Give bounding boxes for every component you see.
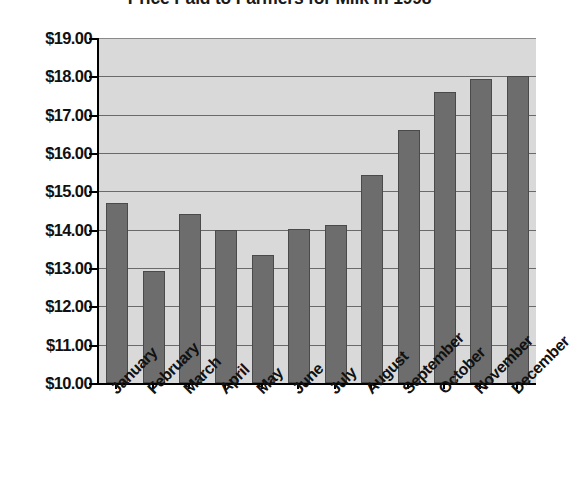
plot-area xyxy=(97,38,536,385)
y-axis-tick-mark xyxy=(89,76,98,78)
y-axis-tick-label: $19.00 xyxy=(8,29,92,48)
y-axis-tick-mark xyxy=(89,306,98,308)
gridline xyxy=(99,76,536,77)
y-axis-tick-mark xyxy=(89,345,98,347)
y-axis-tick-mark xyxy=(89,268,98,270)
y-axis-tick-mark xyxy=(89,38,98,40)
bar-september xyxy=(398,130,420,383)
bar-august xyxy=(361,175,383,383)
gridline xyxy=(99,38,536,39)
bar-june xyxy=(288,229,310,383)
y-axis-tick-label: $18.00 xyxy=(8,67,92,86)
bar-november xyxy=(470,79,492,383)
y-axis-tick-mark xyxy=(89,115,98,117)
y-axis-tick-label: $14.00 xyxy=(8,220,92,239)
y-axis-tick-mark xyxy=(89,230,98,232)
x-axis: JanuaryFebruaryMarchAprilMayJuneJulyAugu… xyxy=(0,385,559,488)
y-axis-tick-label: $16.00 xyxy=(8,144,92,163)
y-axis-tick-label: $12.00 xyxy=(8,297,92,316)
bar-july xyxy=(325,225,347,383)
y-axis-tick-mark xyxy=(89,191,98,193)
y-axis-tick-label: $17.00 xyxy=(8,105,92,124)
y-axis-tick-mark xyxy=(89,153,98,155)
y-axis-tick-label: $13.00 xyxy=(8,259,92,278)
bar-may xyxy=(252,255,274,383)
y-axis-tick-label: $15.00 xyxy=(8,182,92,201)
bar-january xyxy=(106,203,128,383)
y-axis-tick-label: $11.00 xyxy=(8,335,92,354)
